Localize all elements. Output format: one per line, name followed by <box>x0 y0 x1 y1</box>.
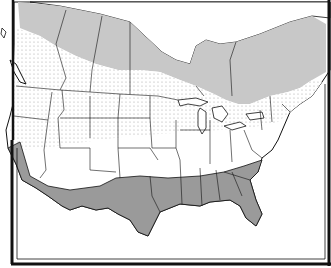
small-island <box>1 28 6 38</box>
zone-map <box>0 0 331 268</box>
